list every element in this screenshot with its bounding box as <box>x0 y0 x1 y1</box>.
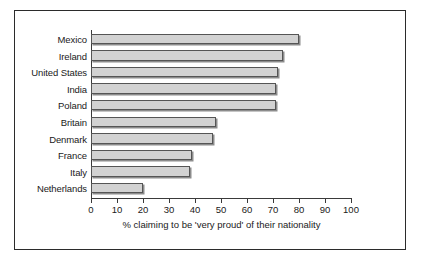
bar <box>91 50 283 61</box>
bar <box>91 133 213 144</box>
bar <box>91 67 278 78</box>
x-axis-tick-label: 0 <box>88 204 93 215</box>
bar-row: Italy <box>0 164 421 179</box>
category-label: Ireland <box>59 50 87 61</box>
bar <box>91 166 190 177</box>
x-axis-tick-label: 80 <box>294 204 305 215</box>
bar <box>91 83 276 94</box>
bar <box>91 117 216 128</box>
x-axis-tick <box>91 199 92 203</box>
category-label: France <box>58 150 87 161</box>
bar-row: Poland <box>0 98 421 113</box>
bar-row: India <box>0 81 421 96</box>
bar-row: Denmark <box>0 131 421 146</box>
x-axis-tick <box>117 199 118 203</box>
x-axis-tick <box>195 199 196 203</box>
bar <box>91 34 299 45</box>
bar <box>91 100 276 111</box>
bar-row: Britain <box>0 115 421 130</box>
x-axis-tick <box>299 199 300 203</box>
x-axis-tick <box>169 199 170 203</box>
x-axis-tick <box>221 199 222 203</box>
category-label: Netherlands <box>37 183 87 194</box>
category-label: Mexico <box>58 34 88 45</box>
x-axis-tick <box>143 199 144 203</box>
bar-row: Ireland <box>0 48 421 63</box>
x-axis-tick-label: 90 <box>320 204 331 215</box>
x-axis-tick <box>325 199 326 203</box>
chart-figure: Mexico Ireland United States India Polan… <box>0 0 421 261</box>
x-axis-tick-label: 60 <box>242 204 253 215</box>
category-label: United States <box>31 67 87 78</box>
category-label: Poland <box>58 100 87 111</box>
bar-row: France <box>0 148 421 163</box>
bar-row: Mexico <box>0 32 421 47</box>
x-axis-tick <box>247 199 248 203</box>
x-axis-label: % claiming to be 'very proud' of their n… <box>91 219 352 230</box>
x-axis-tick-label: 50 <box>216 204 227 215</box>
bar <box>91 183 143 194</box>
category-label: Denmark <box>49 133 87 144</box>
x-axis-tick <box>273 199 274 203</box>
category-label: Italy <box>70 166 87 177</box>
x-axis-tick-label: 30 <box>164 204 175 215</box>
bar-row: United States <box>0 65 421 80</box>
bar <box>91 150 192 161</box>
x-axis-tick-label: 10 <box>112 204 123 215</box>
x-axis-tick-label: 70 <box>268 204 279 215</box>
category-label: Britain <box>61 117 87 128</box>
x-axis-tick <box>351 199 352 203</box>
x-axis-tick-label: 20 <box>138 204 149 215</box>
plot-area: Mexico Ireland United States India Polan… <box>0 0 421 261</box>
x-axis-tick-label: 40 <box>190 204 201 215</box>
bar-row: Netherlands <box>0 181 421 196</box>
category-label: India <box>67 83 87 94</box>
x-axis-tick-label: 100 <box>343 204 359 215</box>
